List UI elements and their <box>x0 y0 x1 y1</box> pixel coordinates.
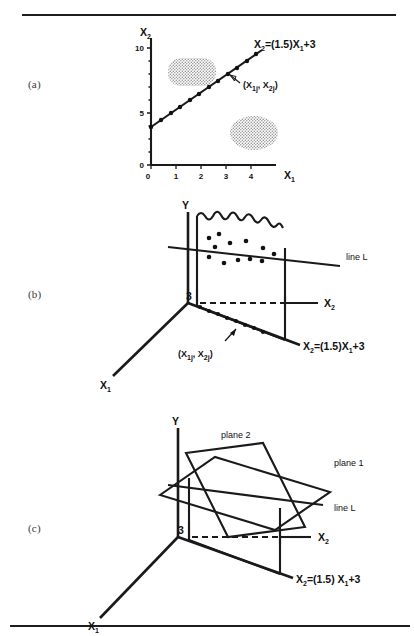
panel-c-y-axis-label: Y <box>172 415 179 427</box>
panel-c-diagram: Y X1 X2 3 plane 2 plane 1 line L X2=(1.5… <box>0 0 414 636</box>
panel-c-x2-axis-label: X2 <box>318 531 329 545</box>
panel-c-intercept-label: 3 <box>178 524 184 536</box>
figure-page: (a) (b) (c) <box>0 0 414 636</box>
panel-c-plane-1 <box>160 457 330 530</box>
panel-c-line-l-label: line L <box>334 503 356 513</box>
panel-c-dashed-line <box>192 530 311 544</box>
panel-c-plane-2-label: plane 2 <box>221 430 251 440</box>
panel-c-axes <box>100 428 293 618</box>
panel-c-equation-label: X2=(1.5) X1+3 <box>296 573 361 587</box>
panel-c-plane-1-label: plane 1 <box>334 458 364 468</box>
panel-c-x1-axis-label: X1 <box>88 620 99 634</box>
panel-c-vertical-edges <box>189 478 280 574</box>
panel-c-line-l <box>168 485 323 505</box>
